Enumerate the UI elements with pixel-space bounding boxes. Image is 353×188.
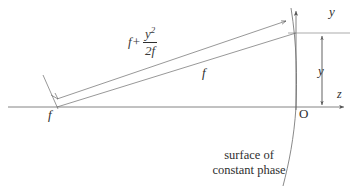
figure-root: f + y2 2f f f y y z O surface of constan…: [0, 0, 353, 188]
fraction-denominator: 2f: [143, 42, 157, 58]
label-origin: O: [299, 107, 308, 120]
label-f-middle: f: [202, 66, 206, 79]
focal-tick-left: [43, 75, 58, 109]
expression-fraction: y2 2f: [143, 27, 157, 57]
fraction-numerator: y2: [143, 27, 157, 42]
label-y-dimension: y: [318, 64, 324, 77]
expression-operator: +: [133, 34, 140, 50]
expression-base-term: f: [128, 34, 132, 50]
numerator-exponent: 2: [151, 25, 155, 35]
surface-caption: surface of constant phase: [190, 148, 308, 179]
label-z-axis: z: [337, 88, 342, 100]
caption-line-1: surface of: [190, 148, 308, 163]
path-length-expression: f + y2 2f: [128, 27, 157, 57]
caption-line-2: constant phase: [190, 163, 308, 178]
label-y-axis: y: [329, 5, 335, 18]
upper-ray-line: [57, 21, 286, 99]
lower-ray-line: [57, 33, 296, 107]
upper-ray-left-arrowhead: [51, 93, 58, 99]
label-f-left: f: [48, 108, 52, 121]
